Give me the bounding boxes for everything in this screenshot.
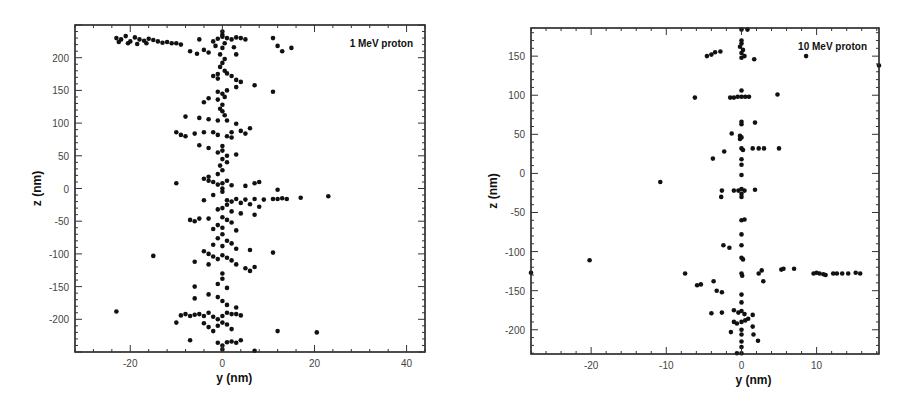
data-point	[229, 209, 234, 214]
data-point	[739, 243, 744, 248]
data-point	[197, 116, 202, 121]
data-point	[739, 339, 744, 344]
data-point	[225, 311, 230, 316]
data-point	[206, 146, 211, 151]
data-point	[234, 305, 239, 310]
data-point	[220, 144, 225, 149]
data-point	[197, 312, 202, 317]
data-point	[239, 129, 244, 134]
data-point	[718, 49, 723, 54]
scatter-figure: -2002040-200-150-100-50050100150200y (nm…	[0, 0, 909, 403]
data-point	[206, 252, 211, 257]
data-point	[229, 74, 234, 79]
data-point	[216, 72, 221, 77]
data-point	[188, 338, 193, 343]
data-point	[735, 321, 740, 326]
figure: -2002040-200-150-100-50050100150200y (nm…	[0, 0, 909, 403]
data-point	[225, 286, 230, 291]
data-point	[732, 308, 737, 313]
y-tick-label: 50	[514, 129, 526, 140]
data-point	[720, 290, 725, 295]
data-point	[804, 54, 809, 59]
data-point	[781, 267, 786, 272]
data-point	[220, 277, 225, 282]
data-point	[216, 76, 221, 81]
plot-frame	[531, 28, 879, 354]
data-point	[285, 197, 290, 202]
data-point	[225, 218, 230, 223]
data-point	[699, 282, 704, 287]
data-point	[123, 34, 128, 39]
data-point	[179, 133, 184, 138]
data-point	[206, 325, 211, 330]
data-point	[216, 324, 221, 329]
data-point	[222, 41, 227, 46]
y-tick-label: -150	[505, 286, 525, 297]
data-point	[225, 340, 230, 345]
data-point	[197, 143, 202, 148]
data-point	[740, 274, 745, 279]
data-point	[225, 303, 230, 308]
data-point	[709, 311, 714, 316]
data-point	[739, 332, 744, 337]
data-point	[741, 257, 746, 262]
data-point	[202, 198, 207, 203]
y-tick-label: -200	[505, 325, 525, 336]
data-point	[234, 78, 239, 83]
data-point	[239, 36, 244, 41]
data-point	[206, 96, 211, 101]
data-point	[229, 130, 234, 135]
x-axis-label: y (nm)	[216, 371, 252, 385]
data-point	[174, 181, 179, 186]
y-tick-label: 100	[52, 118, 69, 129]
data-point	[248, 202, 253, 207]
data-point	[183, 114, 188, 119]
data-point	[315, 330, 320, 335]
data-point	[752, 57, 757, 62]
data-point	[211, 329, 216, 334]
data-point	[739, 300, 744, 305]
data-point	[711, 156, 716, 161]
data-point	[218, 52, 223, 57]
data-point	[202, 176, 207, 181]
data-point	[239, 201, 244, 206]
data-point	[739, 55, 744, 60]
data-point	[216, 341, 221, 346]
data-point	[840, 271, 845, 276]
data-point	[216, 133, 221, 138]
data-point	[220, 157, 225, 162]
data-point	[169, 41, 174, 46]
data-point	[683, 271, 688, 276]
y-tick-label: -50	[511, 207, 526, 218]
data-point	[202, 321, 207, 326]
data-point	[160, 40, 165, 45]
data-point	[234, 35, 239, 40]
data-point	[759, 268, 764, 273]
data-point	[750, 324, 755, 329]
data-point	[753, 120, 758, 125]
data-point	[729, 131, 734, 136]
data-point	[114, 309, 119, 314]
data-point	[135, 42, 140, 47]
data-point	[216, 89, 221, 94]
data-point	[174, 41, 179, 46]
data-point	[742, 312, 747, 317]
x-tick-label: 0	[220, 358, 226, 369]
data-point	[234, 122, 239, 127]
data-point	[229, 135, 234, 140]
data-point	[739, 122, 744, 127]
data-point	[714, 288, 719, 293]
data-point	[853, 270, 858, 275]
data-point	[117, 40, 122, 45]
data-point	[229, 241, 234, 246]
data-points	[529, 27, 882, 355]
data-point	[252, 181, 257, 186]
data-point	[229, 312, 234, 317]
data-point	[722, 149, 727, 154]
data-point	[218, 65, 223, 70]
data-point	[179, 313, 184, 318]
data-point	[720, 310, 725, 315]
data-point	[739, 163, 744, 168]
data-point	[192, 312, 197, 317]
data-point	[229, 183, 234, 188]
